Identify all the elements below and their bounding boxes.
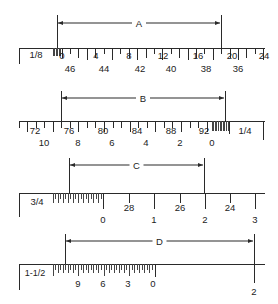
scale-number-lower: 2: [251, 286, 256, 297]
dimension-label: B: [140, 93, 146, 104]
scale-number-upper: 28: [124, 202, 135, 213]
scale-label: 3/4: [30, 196, 43, 207]
scale-number-fine: 0: [150, 278, 155, 289]
arrowhead-right-icon: [198, 163, 203, 167]
ruler-diagram: 1/804812162024464442403836A1/47276808488…: [0, 0, 278, 304]
scale-number-upper: 16: [193, 50, 204, 61]
scale-B: 1/47276808488921086420B: [19, 91, 265, 148]
scale-number-upper: 80: [98, 125, 109, 136]
scale-number-fine: 3: [125, 278, 130, 289]
scale-number-lower: 0: [100, 214, 105, 225]
scale-A: 1/804812162024464442403836A: [19, 15, 269, 74]
scale-number-lower: 1: [151, 214, 156, 225]
scale-number-lower: 2: [202, 214, 207, 225]
dimension-label: A: [136, 18, 143, 29]
scale-number-upper: 12: [158, 50, 169, 61]
dimension-label: C: [133, 160, 140, 171]
scale-number-upper: 88: [166, 125, 177, 136]
scale-number-lower: 40: [166, 63, 177, 74]
scale-number-upper: 26: [175, 202, 186, 213]
scale-label: 1/4: [238, 125, 251, 136]
scale-number-lower: 3: [252, 214, 257, 225]
scale-number-fine: 6: [100, 278, 105, 289]
scale-number-upper: 0: [59, 50, 64, 61]
scale-number-upper: 72: [30, 125, 41, 136]
arrowhead-left-icon: [58, 21, 63, 25]
scale-label: 1-1/2: [25, 268, 46, 278]
scale-number-lower: 42: [135, 63, 146, 74]
scale-number-upper: 84: [132, 125, 143, 136]
scale-number-upper: 8: [126, 50, 131, 61]
scale-number-upper: 20: [227, 50, 238, 61]
scale-number-lower: 8: [75, 137, 80, 148]
scale-number-upper: 4: [93, 50, 98, 61]
arrowhead-left-icon: [66, 239, 71, 243]
scale-number-lower: 36: [233, 63, 244, 74]
arrowhead-left-icon: [70, 163, 75, 167]
dimension-label: D: [156, 236, 163, 247]
scale-number-lower: 2: [177, 137, 182, 148]
scale-number-lower: 46: [65, 63, 76, 74]
scale-number-upper: 76: [64, 125, 75, 136]
scale-number-lower: 0: [209, 137, 214, 148]
scale-number-lower: 6: [109, 137, 114, 148]
scale-number-lower: 10: [39, 137, 50, 148]
scale-C: 3/42826240123C: [19, 158, 265, 225]
scale-number-lower: 44: [99, 63, 110, 74]
scale-D: 1-1/296302D: [19, 234, 265, 297]
arrowhead-right-icon: [219, 96, 224, 100]
scale-number-upper: 92: [199, 125, 210, 136]
arrowhead-right-icon: [215, 21, 220, 25]
scale-number-upper: 24: [259, 50, 270, 61]
scale-number-upper: 24: [225, 202, 236, 213]
arrowhead-left-icon: [62, 96, 67, 100]
scale-number-lower: 38: [201, 63, 212, 74]
scale-label: 1/8: [29, 49, 42, 60]
arrowhead-right-icon: [248, 239, 253, 243]
scale-number-lower: 4: [143, 137, 148, 148]
scale-number-fine: 9: [75, 278, 80, 289]
